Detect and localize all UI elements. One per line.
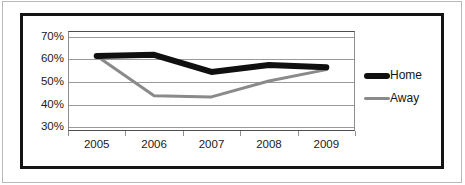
x-axis-tick (68, 131, 69, 136)
x-axis-tick-label: 2006 (125, 137, 182, 157)
x-axis-tick (125, 131, 126, 136)
x-axis-ticks (68, 131, 355, 136)
chart-canvas: 70%60%50%40%30% 20052006200720082009 Hom… (23, 16, 441, 166)
x-axis-tick-label: 2005 (68, 137, 125, 157)
thin-gray-line-icon (364, 97, 390, 100)
y-axis-tick-label: 70% (24, 30, 64, 42)
chart-screenshot: 70%60%50%40%30% 20052006200720082009 Hom… (0, 0, 465, 185)
x-axis-tick-label: 2009 (298, 137, 355, 157)
x-axis-tick (240, 131, 241, 136)
x-axis-tick (298, 131, 299, 136)
x-axis-tick (183, 131, 184, 136)
x-axis-tick (355, 131, 356, 136)
series-line-home (97, 55, 327, 72)
y-axis-tick-label: 40% (24, 98, 64, 110)
series-line-away (97, 56, 327, 97)
legend-label-away: Away (390, 92, 419, 105)
y-axis-tick-label: 60% (24, 52, 64, 64)
data-series-layer (68, 31, 355, 131)
x-axis-tick-label: 2008 (240, 137, 297, 157)
x-axis-labels: 20052006200720082009 (68, 137, 355, 157)
thick-black-line-icon (364, 73, 390, 79)
y-axis-labels: 70%60%50%40%30% (23, 31, 64, 131)
y-axis-tick-label: 30% (24, 120, 64, 132)
chart-legend: Home Away (364, 64, 439, 110)
legend-label-home: Home (390, 69, 422, 82)
x-axis-tick-label: 2007 (183, 137, 240, 157)
legend-item-away: Away (364, 87, 439, 110)
legend-item-home: Home (364, 64, 439, 87)
y-axis-tick-label: 50% (24, 75, 64, 87)
chart-frame-border: 70%60%50%40%30% 20052006200720082009 Hom… (20, 13, 444, 169)
